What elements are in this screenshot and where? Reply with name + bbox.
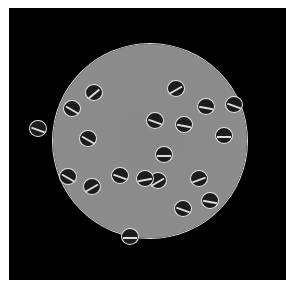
dividing-cell xyxy=(146,112,164,129)
dividing-cell xyxy=(83,178,101,195)
dividing-cell xyxy=(190,170,208,187)
dividing-cell xyxy=(215,127,233,144)
dividing-cell xyxy=(136,170,154,187)
dividing-cell xyxy=(197,98,215,115)
dividing-cell xyxy=(59,168,77,185)
dividing-cell xyxy=(79,130,97,147)
dividing-cell xyxy=(121,228,139,245)
dividing-cell xyxy=(85,84,103,101)
dividing-cell xyxy=(175,116,193,133)
dividing-cell xyxy=(111,167,129,184)
dividing-cell xyxy=(174,200,192,217)
dividing-cell xyxy=(29,120,47,137)
dividing-cell xyxy=(225,96,243,113)
dividing-cell xyxy=(63,100,81,117)
dividing-cell xyxy=(155,146,173,163)
dividing-cell xyxy=(201,192,219,209)
dividing-cell xyxy=(167,80,185,97)
